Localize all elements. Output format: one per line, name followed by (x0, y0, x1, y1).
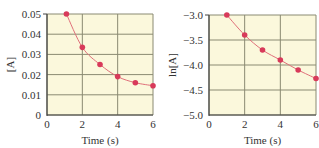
y-tick-label: 0.02 (22, 69, 41, 81)
x-tick-label: 2 (242, 118, 248, 130)
data-point (133, 80, 139, 86)
y-tick-label: 0.01 (22, 89, 41, 101)
data-point (150, 83, 156, 89)
data-point (224, 12, 230, 18)
data-point (80, 45, 86, 51)
x-tick-label: 2 (80, 118, 86, 130)
data-point (278, 57, 284, 63)
x-axis-label: Time (s) (81, 134, 119, 147)
y-tick-label: 0 (36, 109, 42, 121)
data-point (115, 74, 121, 80)
x-tick-label: 0 (44, 118, 50, 130)
data-point (313, 76, 319, 82)
x-tick-label: 6 (313, 118, 319, 130)
y-tick-label: −5.0 (183, 109, 203, 121)
data-point (295, 67, 301, 73)
y-tick-label: 0.04 (22, 28, 42, 40)
y-tick-label: −3.0 (183, 9, 203, 21)
data-point (64, 11, 70, 17)
y-tick-label: −3.5 (183, 34, 203, 46)
y-tick-label: −4.0 (183, 59, 203, 71)
data-point (260, 47, 266, 53)
ln-concentration-chart: −5.0−4.5−4.0−3.5−3.00246Time (s)ln[A] (166, 9, 319, 147)
y-tick-label: −4.5 (183, 84, 203, 96)
y-axis-label: ln[A] (166, 53, 178, 77)
x-tick-label: 6 (150, 118, 156, 130)
data-point (97, 62, 103, 68)
y-tick-label: 0.03 (22, 48, 42, 60)
concentration-chart: 00.010.020.030.040.050246Time (s)[A] (4, 8, 156, 147)
charts-canvas: 00.010.020.030.040.050246Time (s)[A] −5.… (0, 0, 319, 148)
x-tick-label: 0 (206, 118, 212, 130)
y-tick-label: 0.05 (22, 8, 42, 20)
x-axis-label: Time (s) (244, 134, 282, 147)
x-tick-label: 4 (115, 118, 121, 130)
x-tick-label: 4 (278, 118, 284, 130)
y-axis-label: [A] (4, 57, 16, 72)
data-point (242, 32, 248, 38)
